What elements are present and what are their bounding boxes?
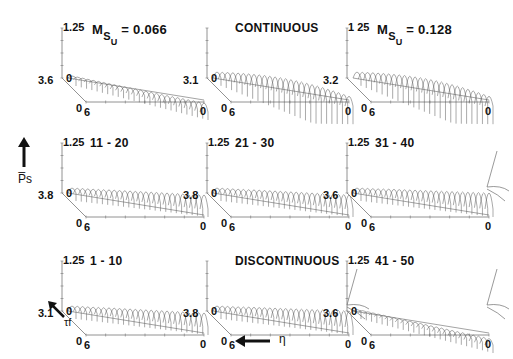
- chart-panel: MSU = 0.0661.2503.6060: [0, 0, 165, 115]
- chart-panel: 41 - 501.2503.6060: [285, 233, 450, 348]
- chart-panel: MSU = 0.1281 253.2060: [285, 0, 450, 115]
- y-max-label: 1.25: [208, 137, 229, 148]
- y-zero-label: 0: [351, 306, 357, 317]
- depth-zero-label: 0: [361, 218, 367, 229]
- chart-panel: 11 - 201.2503.8060: [0, 115, 165, 230]
- y-zero-label: 0: [66, 188, 72, 199]
- panel-title: 11 - 20: [90, 137, 129, 149]
- x-left-label: 6: [84, 340, 90, 351]
- y-max-label: 1.25: [348, 255, 369, 266]
- depth-max-label: 3.1: [183, 75, 198, 86]
- panel-title-text: 11 - 20: [90, 136, 129, 150]
- panel-title-text: 41 - 50: [375, 254, 414, 268]
- depth-zero-label: 0: [76, 336, 82, 347]
- panel-title-text: 31 - 40: [375, 136, 414, 150]
- x-left-label: 6: [369, 340, 375, 351]
- axes-and-traces: [285, 115, 513, 235]
- depth-zero-label: 0: [76, 218, 82, 229]
- y-zero-label: 0: [66, 306, 72, 317]
- chart-panel: 31 - 401.2503.6060: [285, 115, 450, 230]
- x-left-label: 6: [229, 222, 235, 233]
- panel-title: 41 - 50: [375, 255, 414, 267]
- depth-max-label: 3.6: [323, 308, 338, 319]
- depth-max-label: 3.1: [38, 308, 53, 319]
- x-left-label: 6: [369, 222, 375, 233]
- panel-title-text: 21 - 30: [235, 136, 274, 150]
- depth-zero-label: 0: [361, 336, 367, 347]
- panel-title-text: 1 - 10: [90, 254, 123, 268]
- panel-title: 31 - 40: [375, 137, 414, 149]
- depth-max-label: 3.2: [323, 75, 338, 86]
- y-max-label: 1.25: [63, 255, 84, 266]
- panel-title: 21 - 30: [235, 137, 274, 149]
- axes-and-traces: [285, 0, 513, 120]
- y-max-label: 1.25: [348, 137, 369, 148]
- depth-zero-label: 0: [221, 103, 227, 114]
- depth-zero-label: 0: [221, 218, 227, 229]
- panel-title: MSU = 0.128: [377, 23, 452, 43]
- y-zero-label: 0: [351, 188, 357, 199]
- y-zero-label: 0: [211, 188, 217, 199]
- depth-max-label: 3.8: [183, 308, 198, 319]
- panel-title-symbol: MSU: [92, 22, 118, 37]
- panel-title-value: = 0.128: [406, 22, 452, 37]
- depth-max-label: 3.6: [38, 75, 53, 86]
- y-max-label: 1.25: [63, 22, 84, 33]
- y-max-label: 1.25: [63, 137, 84, 148]
- y-max-label: 1 25: [348, 22, 369, 33]
- x-right-label: 0: [485, 221, 491, 232]
- depth-zero-label: 0: [221, 336, 227, 347]
- depth-zero-label: 0: [76, 103, 82, 114]
- depth-max-label: 3.6: [323, 190, 338, 201]
- x-left-label: 6: [229, 340, 235, 351]
- y-zero-label: 0: [211, 306, 217, 317]
- axes-and-traces: [285, 233, 513, 353]
- depth-max-label: 3.8: [38, 190, 53, 201]
- x-left-label: 6: [84, 222, 90, 233]
- panel-title-symbol: MSU: [377, 22, 403, 37]
- depth-max-label: 3.8: [183, 190, 198, 201]
- chart-panel: 1 - 101.2503.1060: [0, 233, 165, 348]
- panel-title: 1 - 10: [90, 255, 123, 267]
- y-zero-label: 0: [211, 73, 217, 84]
- x-right-label: 0: [485, 339, 491, 350]
- y-zero-label: 0: [66, 73, 72, 84]
- depth-zero-label: 0: [361, 103, 367, 114]
